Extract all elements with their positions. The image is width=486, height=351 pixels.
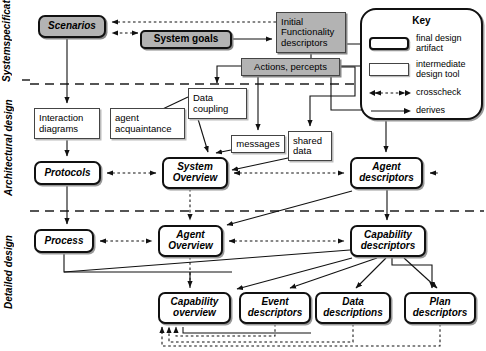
node-data-descriptions[interactable]: Data descriptions: [315, 292, 391, 324]
node-process[interactable]: Process: [34, 229, 94, 253]
node-capability-overview[interactable]: Capability overview: [158, 292, 231, 324]
edge-bottom-solid-bus: [183, 327, 311, 333]
key-row-derives: derives: [369, 103, 479, 119]
final-design-artifact-icon: [369, 36, 411, 52]
phase-label-detailed-design: Detailed design: [4, 222, 18, 322]
key-label: crosscheck: [416, 88, 461, 98]
node-agent-overview[interactable]: Agent Overview: [158, 225, 223, 257]
node-label: Agent descriptors: [359, 162, 413, 184]
node-label: Data descriptions: [323, 297, 382, 319]
edge-capability-descriptors-to-data-descriptions: [356, 258, 386, 288]
edge-agent-descriptors-to-agent-overview: [227, 191, 352, 225]
node-label: agent acquaintance: [115, 113, 172, 134]
node-label: Interaction diagrams: [39, 113, 83, 134]
phase-label-architectural-design: Architectural design: [4, 92, 18, 204]
edge-data-coupling-to-system-overview: [198, 119, 208, 152]
node-agent-acquaintance[interactable]: agent acquaintance: [110, 108, 185, 139]
key-label: final design artifact: [416, 34, 462, 53]
edge-messages-to-system-overview: [216, 150, 231, 153]
key-panel: Key final design artifact intermediate d…: [360, 8, 483, 120]
node-label: Initial Functionality descriptors: [281, 17, 334, 48]
node-protocols[interactable]: Protocols: [34, 161, 101, 185]
edge-event-to-capability-overview: [176, 324, 275, 336]
key-label: intermediate design tool: [416, 60, 466, 79]
node-label: Capability descriptors: [361, 230, 415, 252]
node-system-goals[interactable]: System goals: [140, 30, 232, 49]
intermediate-design-tool-icon: [369, 62, 411, 78]
edge-capability-descriptors-to-capability-overview: [237, 258, 352, 289]
node-label: Capability overview: [171, 297, 219, 319]
phase-label-system-specification: Systemspecification: [2, 14, 26, 82]
node-label: Agent Overview: [168, 230, 212, 252]
node-plan-descriptors[interactable]: Plan descriptors: [404, 292, 476, 324]
key-row-final-design-artifact: final design artifact: [369, 34, 479, 53]
key-row-intermediate-design-tool: intermediate design tool: [369, 60, 479, 79]
node-scenarios[interactable]: Scenarios: [38, 15, 106, 38]
key-label: derives: [416, 106, 445, 116]
derives-icon: [369, 103, 411, 119]
node-shared-data[interactable]: shared data: [288, 131, 332, 161]
edge-capability-descriptors-rail-to-plan: [392, 258, 432, 288]
node-label: Data coupling: [193, 93, 228, 114]
node-interaction-diagrams[interactable]: Interaction diagrams: [34, 108, 100, 139]
node-initial-functionality-descriptors[interactable]: Initial Functionality descriptors: [276, 12, 346, 53]
key-row-crosscheck: crosscheck: [369, 85, 479, 101]
key-title: Key: [362, 15, 481, 26]
node-system-overview[interactable]: System Overview: [162, 157, 228, 189]
node-actions-percepts[interactable]: Actions, percepts: [241, 58, 340, 76]
node-data-coupling[interactable]: Data coupling: [188, 88, 247, 119]
node-event-descriptors[interactable]: Event descriptors: [239, 292, 311, 324]
node-agent-descriptors[interactable]: Agent descriptors: [350, 157, 423, 189]
edge-plan-to-capability-overview: [162, 324, 440, 346]
node-label: Event descriptors: [248, 297, 302, 319]
crosscheck-icon: [369, 85, 411, 101]
node-label: Plan descriptors: [413, 297, 467, 319]
node-label: shared data: [293, 136, 322, 157]
edges-bottom-bus: [183, 327, 311, 333]
node-capability-descriptors[interactable]: Capability descriptors: [350, 225, 426, 257]
edge-shared-data-to-system-overview: [232, 158, 288, 170]
diagram-canvas: Systemspecification Architectural design…: [0, 0, 486, 351]
node-label: System Overview: [173, 162, 217, 184]
node-messages[interactable]: messages: [231, 135, 285, 153]
